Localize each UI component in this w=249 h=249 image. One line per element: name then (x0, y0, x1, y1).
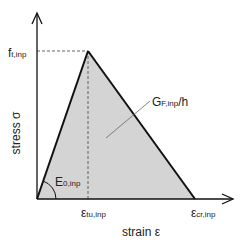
x-axis-label: strain ε (122, 225, 160, 239)
peak-strain-sub: tu,inp (86, 210, 106, 219)
modulus-base: E (55, 175, 63, 189)
modulus-label: E0,inp (55, 172, 80, 190)
crack-strain-sub: cr,inp (196, 210, 215, 219)
peak-stress-label: ft,inp (8, 43, 26, 61)
fracture-energy-label: GF,inp/h (152, 92, 188, 110)
peak-strain-label: εtu,inp (81, 203, 106, 221)
fracture-energy-suffix: /h (178, 95, 188, 109)
fracture-energy-base: G (152, 95, 161, 109)
modulus-sub: 0,inp (63, 179, 80, 188)
y-axis-label: stress σ (9, 103, 23, 163)
peak-stress-sub: t,inp (11, 50, 26, 59)
crack-strain-label: εcr,inp (191, 203, 215, 221)
fracture-energy-sub: F,inp (161, 99, 178, 108)
